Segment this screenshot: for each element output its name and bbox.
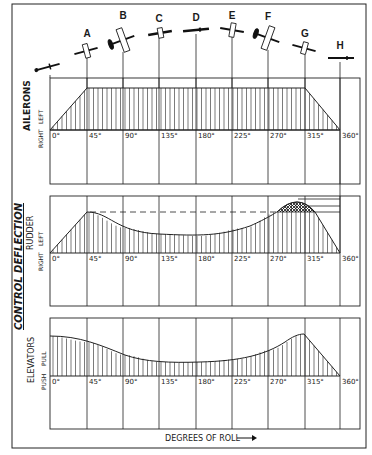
svg-text:180°: 180° xyxy=(198,132,215,140)
svg-text:PUSH: PUSH xyxy=(40,374,47,390)
svg-text:A: A xyxy=(83,28,90,39)
svg-text:0°: 0° xyxy=(52,378,60,386)
svg-text:RIGHT: RIGHT xyxy=(37,252,44,271)
svg-text:180°: 180° xyxy=(198,255,215,263)
svg-text:G: G xyxy=(301,28,309,39)
svg-text:RIGHT: RIGHT xyxy=(37,129,44,148)
airplane-icon-e xyxy=(219,21,245,39)
rudder-panel: CONTROL DEFLECTION RUDDER LEFT RIGHT xyxy=(13,196,360,330)
svg-text:180°: 180° xyxy=(198,378,215,386)
svg-text:C: C xyxy=(155,13,162,24)
svg-text:360°: 360° xyxy=(342,255,359,263)
svg-text:315°: 315° xyxy=(307,378,324,386)
airplane-icon-c xyxy=(147,26,172,40)
control-deflection-title: CONTROL DEFLECTION xyxy=(13,202,24,330)
svg-text:315°: 315° xyxy=(307,132,324,140)
svg-text:45°: 45° xyxy=(89,378,101,386)
elevators-label: ELEVATORS xyxy=(27,337,36,383)
svg-text:LEFT: LEFT xyxy=(37,232,44,246)
svg-text:PULL: PULL xyxy=(40,351,47,366)
svg-text:H: H xyxy=(336,40,343,51)
svg-text:90°: 90° xyxy=(125,132,137,140)
x-axis-label: DEGREES OF ROLL xyxy=(165,434,240,443)
svg-text:135°: 135° xyxy=(161,378,178,386)
svg-text:225°: 225° xyxy=(234,255,251,263)
svg-text:D: D xyxy=(192,12,199,23)
airplane-icon-d xyxy=(183,27,209,33)
arrow-right-icon xyxy=(237,435,257,441)
svg-text:45°: 45° xyxy=(89,255,101,263)
svg-text:225°: 225° xyxy=(234,378,251,386)
svg-text:360°: 360° xyxy=(342,132,359,140)
svg-text:B: B xyxy=(119,10,126,21)
ailerons-label: AILERONS xyxy=(22,80,32,131)
svg-text:E: E xyxy=(229,10,236,21)
svg-text:90°: 90° xyxy=(125,378,137,386)
svg-text:225°: 225° xyxy=(234,132,251,140)
rudder-label: RUDDER xyxy=(26,215,35,250)
svg-text:LEFT: LEFT xyxy=(37,110,44,124)
svg-text:270°: 270° xyxy=(270,132,287,140)
elevators-panel: ELEVATORS PULL PUSH xyxy=(27,318,360,429)
airplane-icon-a xyxy=(73,41,100,61)
airplane-icon-h xyxy=(328,56,354,60)
svg-text:0°: 0° xyxy=(52,255,60,263)
svg-text:0°: 0° xyxy=(52,132,60,140)
airplane-icon-f xyxy=(250,22,284,54)
svg-text:270°: 270° xyxy=(270,255,287,263)
roll-control-diagram: A B C D E F G H xyxy=(0,0,372,455)
airplane-icon-start xyxy=(34,61,60,73)
svg-text:45°: 45° xyxy=(89,132,101,140)
svg-text:90°: 90° xyxy=(125,255,137,263)
ailerons-panel: AILERONS LEFT RIGHT xyxy=(22,78,360,184)
svg-text:270°: 270° xyxy=(270,378,287,386)
airplane-icon-g xyxy=(291,39,317,57)
svg-text:135°: 135° xyxy=(161,132,178,140)
svg-text:315°: 315° xyxy=(307,255,324,263)
svg-text:F: F xyxy=(265,11,271,22)
svg-text:360°: 360° xyxy=(342,378,359,386)
svg-text:135°: 135° xyxy=(161,255,178,263)
airplane-icon-b xyxy=(105,25,139,57)
